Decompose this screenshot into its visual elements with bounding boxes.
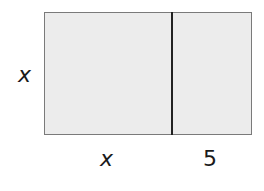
rectangle-divider bbox=[171, 12, 173, 135]
bottom-label-5: 5 bbox=[203, 148, 217, 170]
area-rectangle bbox=[44, 12, 252, 135]
left-side-label: x bbox=[18, 64, 31, 86]
bottom-label-x: x bbox=[100, 148, 113, 170]
